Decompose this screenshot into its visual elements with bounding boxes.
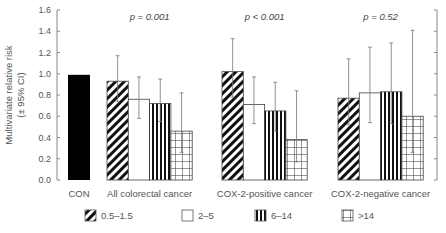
p-value-annotation: p < 0.001 [244, 11, 285, 22]
bar-con [68, 75, 90, 180]
y-tick-label: 1.6 [38, 5, 51, 15]
bars [68, 30, 423, 180]
legend-label-2: 2–5 [198, 210, 214, 221]
y-tick-label: 1.0 [38, 69, 51, 79]
y-tick-label: 0.2 [38, 154, 51, 164]
legend: 0.5–1.52–56–14>14 [85, 210, 374, 221]
y-axis-label-line1: Multivariate relative risk [3, 45, 14, 144]
category-label-con: CON [68, 188, 89, 199]
legend-swatch-3 [255, 210, 266, 221]
legend-label-1: 0.5–1.5 [101, 210, 133, 221]
p-value-annotation: p = 0.001 [129, 11, 170, 22]
category-label: All colorectal cancer [107, 188, 192, 199]
bar-chart: 0.00.20.40.60.81.01.21.41.6Multivariate … [0, 0, 446, 233]
y-tick-label: 0.4 [38, 133, 51, 143]
legend-swatch-2 [182, 210, 193, 221]
y-axis-label: Multivariate relative risk(± 95% CI) [3, 45, 26, 144]
y-tick-label: 0.0 [38, 175, 51, 185]
legend-label-3: 6–14 [271, 210, 292, 221]
y-tick-label: 0.8 [38, 90, 51, 100]
legend-swatch-4 [342, 210, 353, 221]
p-value-annotation: p = 0.52 [362, 11, 398, 22]
legend-swatch-1 [85, 210, 96, 221]
legend-label-4: >14 [358, 210, 374, 221]
y-axis-label-line2: (± 95% CI) [15, 72, 26, 117]
y-tick-label: 1.2 [38, 48, 51, 58]
y-tick-label: 0.6 [38, 111, 51, 121]
category-label: COX-2-positive cancer [217, 188, 313, 199]
category-label: COX-2-negative cancer [331, 188, 430, 199]
y-tick-label: 1.4 [38, 26, 51, 36]
